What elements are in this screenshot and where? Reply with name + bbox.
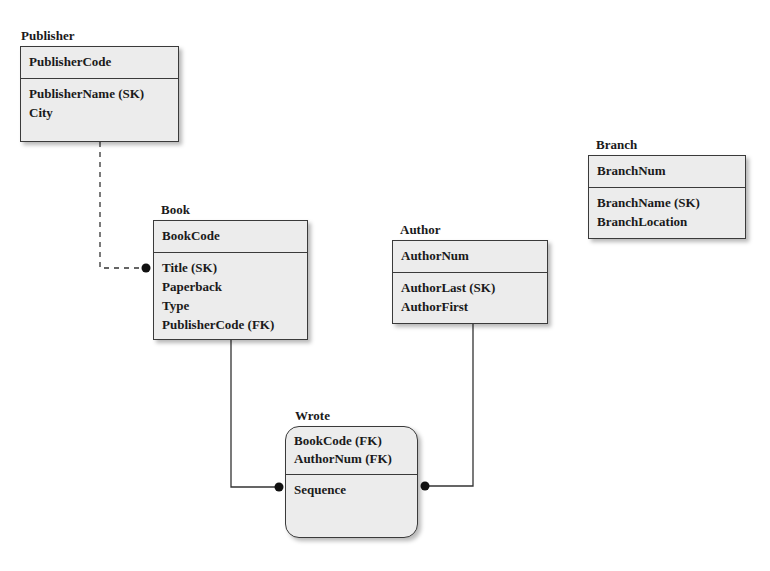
- publisher-attributes: PublisherName (SK) City: [21, 79, 178, 127]
- pk-bookcode: BookCode: [162, 227, 299, 245]
- author-entity[interactable]: AuthorNum AuthorLast (SK) AuthorFirst: [392, 240, 548, 324]
- book-entity-label: Book: [161, 202, 190, 218]
- attr-publishercode-fk: PublisherCode (FK): [162, 315, 299, 334]
- wrote-entity[interactable]: BookCode (FK) AuthorNum (FK) Sequence: [285, 426, 418, 538]
- pk-publishercode: PublisherCode: [29, 53, 170, 71]
- author-wrote-relationship: [428, 324, 473, 486]
- publisher-book-relationship: [100, 142, 143, 268]
- attr-city: City: [29, 103, 170, 122]
- attr-branchname: BranchName (SK): [597, 193, 737, 212]
- attr-sequence: Sequence: [294, 480, 409, 499]
- pk-authornum: AuthorNum: [401, 247, 539, 265]
- branch-primary-key: BranchNum: [589, 156, 745, 188]
- author-primary-key: AuthorNum: [393, 241, 547, 273]
- pk-branchnum: BranchNum: [597, 162, 737, 180]
- branch-entity[interactable]: BranchNum BranchName (SK) BranchLocation: [588, 155, 746, 239]
- book-entity[interactable]: BookCode Title (SK) Paperback Type Publi…: [153, 220, 308, 340]
- attr-branchlocation: BranchLocation: [597, 212, 737, 231]
- book-wrote-dot: [275, 483, 284, 492]
- attr-title: Title (SK): [162, 258, 299, 277]
- branch-entity-label: Branch: [596, 137, 637, 153]
- pk-authornum-fk: AuthorNum (FK): [294, 450, 409, 468]
- publisher-entity-label: Publisher: [21, 28, 74, 44]
- attr-paperback: Paperback: [162, 277, 299, 296]
- attr-type: Type: [162, 296, 299, 315]
- wrote-attributes: Sequence: [286, 475, 417, 504]
- attr-publishername: PublisherName (SK): [29, 84, 170, 103]
- book-primary-key: BookCode: [154, 221, 307, 253]
- publisher-book-dot: [142, 264, 151, 273]
- attr-authorfirst: AuthorFirst: [401, 297, 539, 316]
- wrote-primary-key: BookCode (FK) AuthorNum (FK): [286, 427, 417, 475]
- branch-attributes: BranchName (SK) BranchLocation: [589, 188, 745, 236]
- attr-authorlast: AuthorLast (SK): [401, 278, 539, 297]
- publisher-primary-key: PublisherCode: [21, 47, 178, 79]
- book-wrote-relationship: [231, 340, 276, 487]
- book-attributes: Title (SK) Paperback Type PublisherCode …: [154, 253, 307, 339]
- author-entity-label: Author: [400, 222, 440, 238]
- publisher-entity[interactable]: PublisherCode PublisherName (SK) City: [20, 46, 179, 142]
- wrote-entity-label: Wrote: [295, 408, 330, 424]
- author-wrote-dot: [421, 482, 430, 491]
- pk-bookcode-fk: BookCode (FK): [294, 432, 409, 450]
- author-attributes: AuthorLast (SK) AuthorFirst: [393, 273, 547, 321]
